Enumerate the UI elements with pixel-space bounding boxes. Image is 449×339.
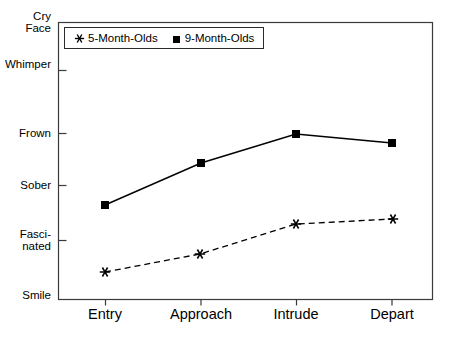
plot-frame: [59, 23, 433, 300]
series-5-month-olds: [100, 215, 398, 277]
data-point-9-month-olds-approach: [197, 159, 205, 167]
data-point-9-month-olds-intrude: [292, 130, 300, 138]
series-5-month-olds-line: [105, 219, 393, 272]
chart-figure: Cry Face Whimper Frown Sober Fasci- nate…: [0, 0, 449, 339]
legend-item-9-month-olds: 9-Month-Olds: [171, 32, 255, 44]
data-point-5-month-olds-entry: [100, 268, 110, 277]
series-9-month-olds-line: [105, 134, 392, 205]
chart-legend: 5-Month-Olds 9-Month-Olds: [64, 27, 264, 49]
series-9-month-olds: [101, 130, 396, 209]
legend-item-5-month-olds: 5-Month-Olds: [74, 32, 158, 44]
legend-label-9-month-olds: 9-Month-Olds: [185, 32, 255, 44]
asterisk-icon: [74, 33, 85, 44]
data-point-9-month-olds-entry: [101, 201, 109, 209]
y-axis-ticks: [59, 71, 67, 241]
data-point-5-month-olds-intrude: [291, 220, 301, 229]
data-point-5-month-olds-depart: [388, 215, 398, 224]
filled-square-icon: [171, 33, 182, 44]
legend-label-5-month-olds: 5-Month-Olds: [88, 32, 158, 44]
x-axis-ticks: [106, 300, 393, 306]
data-point-9-month-olds-depart: [388, 139, 396, 147]
plot-area: [0, 0, 449, 339]
data-point-5-month-olds-approach: [195, 250, 205, 259]
